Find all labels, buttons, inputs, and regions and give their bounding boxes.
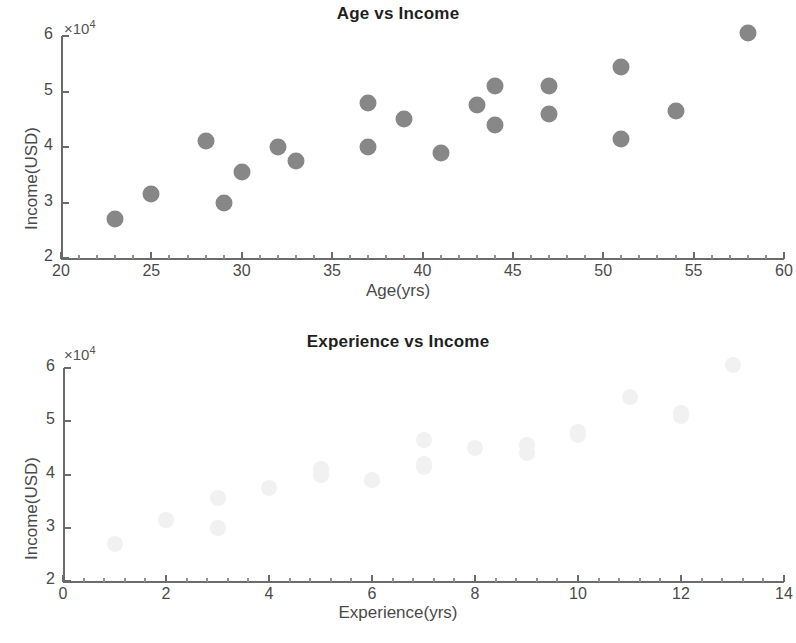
data-point-age — [613, 130, 630, 147]
y-tick-experience-4 — [64, 367, 71, 369]
x-minor-tick-age — [711, 255, 713, 259]
x-minor-tick-age — [223, 255, 225, 259]
x-minor-tick-age — [566, 255, 568, 259]
data-point-experience — [725, 357, 741, 373]
x-tick-label-experience-4: 8 — [445, 585, 505, 603]
data-point-age — [269, 139, 286, 156]
x-minor-tick-experience — [144, 578, 146, 582]
x-minor-tick-age — [476, 255, 478, 259]
x-minor-tick-age — [367, 255, 369, 259]
figure-age-vs-income: Age vs Income ×104 Income(USD) 234562025… — [0, 0, 796, 320]
data-point-age — [486, 77, 503, 94]
x-minor-tick-age — [638, 255, 640, 259]
x-tick-experience-5 — [577, 575, 579, 582]
y-tick-experience-0 — [64, 580, 71, 582]
data-point-experience — [416, 432, 432, 448]
x-minor-tick-experience — [206, 578, 208, 582]
x-tick-age-4 — [422, 252, 424, 259]
x-tick-age-1 — [150, 252, 152, 259]
data-point-experience — [519, 445, 535, 461]
y-tick-label-experience-1: 3 — [17, 517, 55, 535]
data-point-age — [215, 194, 232, 211]
x-minor-tick-experience — [433, 578, 435, 582]
y-tick-age-0 — [62, 257, 69, 259]
x-axis-label-age: Age(yrs) — [0, 281, 796, 301]
x-tick-experience-4 — [474, 575, 476, 582]
figure-experience-vs-income: Experience vs Income ×104 Income(USD) 23… — [0, 320, 796, 643]
x-minor-tick-experience — [103, 578, 105, 582]
x-tick-label-age-0: 20 — [31, 262, 91, 280]
x-tick-age-0 — [60, 252, 62, 259]
x-tick-age-6 — [602, 252, 604, 259]
x-minor-tick-age — [78, 255, 80, 259]
y-axis-line-experience — [63, 368, 65, 583]
x-tick-experience-3 — [371, 575, 373, 582]
x-tick-experience-0 — [62, 575, 64, 582]
x-minor-tick-experience — [742, 578, 744, 582]
x-tick-label-experience-5: 10 — [548, 585, 608, 603]
x-minor-tick-age — [259, 255, 261, 259]
data-point-experience — [210, 520, 226, 536]
x-minor-tick-experience — [412, 578, 414, 582]
x-minor-tick-age — [403, 255, 405, 259]
data-point-age — [432, 144, 449, 161]
x-minor-tick-experience — [227, 578, 229, 582]
y-tick-age-3 — [62, 91, 69, 93]
x-minor-tick-experience — [83, 578, 85, 582]
x-minor-tick-age — [584, 255, 586, 259]
x-minor-tick-age — [205, 255, 207, 259]
x-minor-tick-age — [313, 255, 315, 259]
x-minor-tick-experience — [515, 578, 517, 582]
x-minor-tick-experience — [639, 578, 641, 582]
x-minor-tick-experience — [350, 578, 352, 582]
x-tick-label-age-5: 45 — [483, 262, 543, 280]
x-minor-tick-age — [385, 255, 387, 259]
x-minor-tick-age — [747, 255, 749, 259]
x-tick-age-2 — [241, 252, 243, 259]
y-axis-line-age — [61, 36, 63, 260]
x-minor-tick-experience — [721, 578, 723, 582]
data-point-age — [613, 58, 630, 75]
y-tick-experience-1 — [64, 527, 71, 529]
x-minor-tick-experience — [556, 578, 558, 582]
x-minor-tick-age — [96, 255, 98, 259]
data-point-age — [541, 105, 558, 122]
data-point-experience — [467, 440, 483, 456]
x-axis-label-experience: Experience(yrs) — [0, 603, 796, 623]
x-tick-age-3 — [331, 252, 333, 259]
x-tick-experience-1 — [165, 575, 167, 582]
y-tick-label-experience-3: 5 — [17, 410, 55, 428]
x-tick-label-experience-3: 6 — [342, 585, 402, 603]
data-point-experience — [364, 472, 380, 488]
x-minor-tick-experience — [330, 578, 332, 582]
x-tick-age-5 — [512, 252, 514, 259]
x-tick-label-age-3: 35 — [302, 262, 362, 280]
x-minor-tick-age — [277, 255, 279, 259]
x-tick-label-age-1: 25 — [121, 262, 181, 280]
y-tick-age-4 — [62, 35, 69, 37]
x-minor-tick-age — [440, 255, 442, 259]
data-point-age — [739, 25, 756, 42]
y-tick-label-age-4: 6 — [15, 25, 53, 43]
data-point-age — [143, 186, 160, 203]
x-minor-tick-experience — [453, 578, 455, 582]
data-point-experience — [210, 490, 226, 506]
x-minor-tick-experience — [124, 578, 126, 582]
x-tick-age-8 — [783, 252, 785, 259]
x-minor-tick-age — [114, 255, 116, 259]
x-minor-tick-experience — [289, 578, 291, 582]
data-point-experience — [261, 480, 277, 496]
x-minor-tick-experience — [536, 578, 538, 582]
x-minor-tick-age — [187, 255, 189, 259]
x-minor-tick-experience — [392, 578, 394, 582]
y-tick-age-2 — [62, 146, 69, 148]
x-minor-tick-age — [530, 255, 532, 259]
data-point-experience — [107, 536, 123, 552]
data-point-age — [541, 77, 558, 94]
x-tick-label-age-4: 40 — [393, 262, 453, 280]
x-minor-tick-experience — [247, 578, 249, 582]
x-minor-tick-age — [132, 255, 134, 259]
x-tick-label-age-6: 50 — [573, 262, 633, 280]
y-tick-label-age-1: 3 — [15, 192, 53, 210]
x-tick-label-experience-6: 12 — [651, 585, 711, 603]
